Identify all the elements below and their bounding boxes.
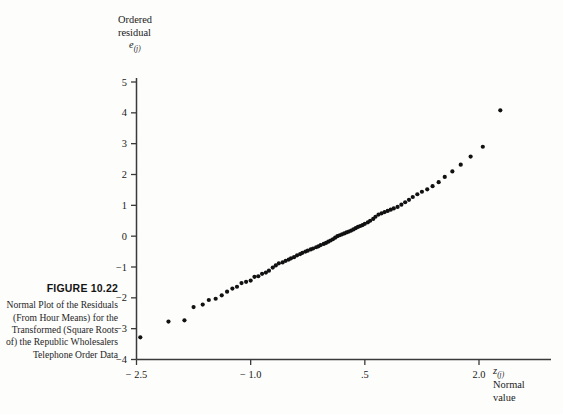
y-axis-tick-label: 3: [122, 138, 127, 149]
data-point: [252, 275, 256, 279]
data-point: [138, 335, 142, 339]
data-point: [407, 198, 411, 202]
y-axis-tick-label: −2: [116, 292, 127, 303]
y-axis-tick-label: 5: [122, 77, 127, 88]
data-point: [182, 318, 186, 322]
data-point: [411, 195, 415, 199]
data-point: [430, 184, 434, 188]
data-point: [267, 269, 271, 273]
y-axis-tick-label: −4: [116, 354, 128, 365]
data-point: [249, 278, 253, 282]
data-point-layer: [138, 108, 502, 339]
data-point: [277, 261, 281, 265]
data-point: [392, 206, 396, 210]
data-point: [403, 200, 407, 204]
data-point: [399, 203, 403, 207]
data-point: [415, 192, 419, 196]
y-axis-tick-label: 4: [122, 107, 128, 118]
y-axis-tick-label: −3: [116, 323, 127, 334]
y-axis-tick-label: 1: [122, 200, 127, 211]
x-axis-tick-label: − 1.0: [240, 369, 261, 380]
data-point: [166, 319, 170, 323]
data-point: [395, 205, 399, 209]
axis-layer: [137, 78, 552, 360]
data-point: [235, 285, 239, 289]
y-axis-tick-label: 2: [122, 169, 127, 180]
data-point: [459, 163, 463, 167]
data-point: [214, 297, 218, 301]
x-axis-tick-label: .5: [361, 369, 369, 380]
data-point: [225, 290, 229, 294]
tick-label-layer: −4−3−2−1012345− 2.5− 1.0.52.0: [116, 77, 486, 380]
data-point: [239, 281, 243, 285]
data-point: [201, 303, 205, 307]
data-point: [420, 190, 424, 194]
data-point: [220, 293, 224, 297]
data-point: [230, 286, 234, 290]
scatter-plot: −4−3−2−1012345− 2.5− 1.0.52.0: [0, 0, 563, 414]
data-point: [498, 108, 502, 112]
data-point: [425, 187, 429, 191]
y-axis-tick-label: 0: [122, 231, 127, 242]
data-point: [191, 305, 195, 309]
data-point: [469, 155, 473, 159]
tick-layer: [131, 82, 479, 365]
figure-page: FIGURE 10.22 Normal Plot of the Residual…: [0, 0, 563, 414]
data-point: [437, 180, 441, 184]
y-axis-tick-label: −1: [116, 262, 127, 273]
x-axis-tick-label: − 2.5: [126, 369, 147, 380]
data-point: [244, 280, 248, 284]
data-point: [207, 298, 211, 302]
data-point: [443, 175, 447, 179]
data-point: [256, 274, 260, 278]
data-point: [450, 169, 454, 173]
x-axis-tick-label: 2.0: [473, 369, 486, 380]
data-point: [260, 272, 264, 276]
data-point: [481, 145, 485, 149]
plot-svg: −4−3−2−1012345− 2.5− 1.0.52.0: [0, 0, 563, 414]
